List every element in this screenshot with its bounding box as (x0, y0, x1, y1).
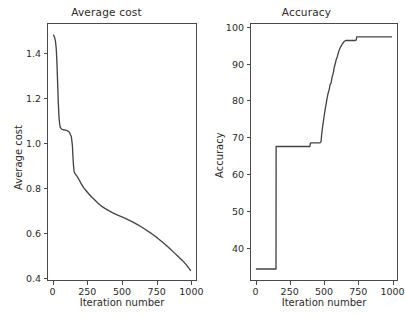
ytick-label: 0.8 (26, 182, 41, 193)
average-cost-line-svg (48, 24, 196, 280)
ytick-label: 70 (232, 132, 244, 143)
chart-title-average-cost: Average cost (0, 6, 203, 18)
xtick-label: 750 (349, 286, 367, 297)
xtick-label: 250 (281, 286, 299, 297)
plot-area-average-cost (47, 23, 197, 281)
ytick-label: 90 (232, 58, 244, 69)
xtick-label: 500 (113, 286, 131, 297)
xtick-label: 0 (50, 286, 56, 297)
xtick-label: 0 (252, 286, 258, 297)
y-axis-label-average-cost: Average cost (13, 125, 24, 190)
ytick-label: 0.6 (26, 227, 41, 238)
ytick-label: 1.2 (26, 93, 41, 104)
y-axis-accuracy: 100 90 80 70 60 50 40 (203, 23, 250, 281)
x-axis-label-average-cost: Iteration number (47, 297, 197, 308)
x-axis-average-cost: 0 250 500 750 1000 Iteration number (47, 281, 197, 305)
xtick-label: 500 (315, 286, 333, 297)
xtick-label: 1000 (380, 286, 404, 297)
accuracy-line-svg (251, 24, 397, 280)
ytick-label: 60 (232, 169, 244, 180)
ytick-label: 80 (232, 95, 244, 106)
average-cost-curve (53, 35, 190, 270)
xtick-label: 1000 (179, 286, 203, 297)
ytick-label: 1.4 (26, 48, 41, 59)
chart-panel-average-cost: Average cost 1.4 1.2 1.0 0.8 0.6 0.4 0 2… (0, 0, 203, 331)
matplotlib-figure: Average cost 1.4 1.2 1.0 0.8 0.6 0.4 0 2… (0, 0, 405, 331)
x-axis-accuracy: 0 250 500 750 1000 Iteration number (250, 281, 398, 305)
ytick-label: 40 (232, 242, 244, 253)
ytick-label: 1.0 (26, 138, 41, 149)
plot-area-accuracy (250, 23, 398, 281)
x-axis-label-accuracy: Iteration number (250, 297, 398, 308)
ytick-label: 100 (226, 21, 244, 32)
figure-caption (0, 324, 405, 331)
accuracy-curve (256, 37, 391, 269)
xtick-label: 250 (78, 286, 96, 297)
ytick-label: 0.4 (26, 272, 41, 283)
ytick-label: 50 (232, 206, 244, 217)
chart-title-accuracy: Accuracy (202, 6, 405, 18)
xtick-label: 750 (148, 286, 166, 297)
y-axis-label-accuracy: Accuracy (214, 132, 225, 178)
